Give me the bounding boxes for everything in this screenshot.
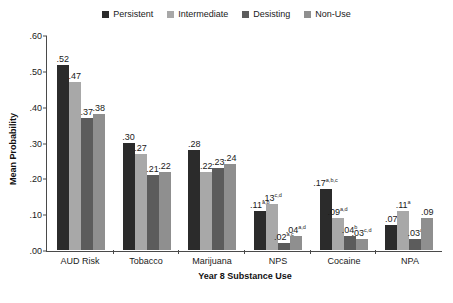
bar-value-text: .17 bbox=[313, 178, 326, 188]
bar[interactable] bbox=[188, 150, 200, 250]
legend-swatch-icon bbox=[304, 11, 311, 18]
legend-swatch-icon bbox=[102, 11, 109, 18]
bar[interactable] bbox=[159, 172, 171, 250]
bar[interactable] bbox=[212, 168, 224, 250]
bar-groups: .52.47.37.38.30.27.21.22.28.22.23.24.11a… bbox=[48, 36, 442, 250]
bar-value-text: .27 bbox=[134, 143, 147, 153]
bar-value-text: .11 bbox=[396, 200, 408, 210]
x-axis-tick-label: NPA bbox=[377, 256, 443, 266]
legend-entry: Desisting bbox=[242, 9, 290, 19]
bar-value-label: .09 bbox=[421, 208, 434, 217]
bar[interactable] bbox=[147, 175, 159, 250]
bar[interactable] bbox=[254, 211, 266, 250]
bar-value-label: .04a,d bbox=[286, 225, 306, 235]
bar-slot: .38 bbox=[93, 36, 105, 250]
bar-value-text: .37 bbox=[81, 107, 94, 117]
x-axis-tick-mark bbox=[310, 250, 311, 254]
bar-value-text: .04 bbox=[286, 225, 299, 235]
bar[interactable] bbox=[385, 225, 397, 250]
bar-value-label: .07 bbox=[385, 215, 398, 224]
bar-slot: .03a bbox=[409, 36, 421, 250]
bar[interactable] bbox=[356, 239, 368, 250]
bar[interactable] bbox=[290, 236, 302, 250]
bar[interactable] bbox=[93, 114, 105, 250]
bar-slot: .11a,b bbox=[254, 36, 266, 250]
bar-value-text: .52 bbox=[57, 54, 70, 64]
legend-entry: Non-Use bbox=[304, 9, 351, 19]
y-axis-tick-mark bbox=[43, 71, 47, 72]
bar-slot: .11a bbox=[397, 36, 409, 250]
x-axis-tick-label: Tobacco bbox=[113, 256, 179, 266]
y-axis-tick-mark bbox=[43, 215, 47, 216]
bar[interactable] bbox=[57, 65, 69, 250]
x-axis-title: Year 8 Substance Use bbox=[47, 271, 443, 281]
plot-area: .00.10.20.30.40.50.60 .52.47.37.38.30.27… bbox=[46, 36, 442, 252]
bar[interactable] bbox=[123, 143, 135, 250]
bar-slot: .17a,b,c bbox=[320, 36, 332, 250]
bar-value-label: .22 bbox=[158, 162, 171, 171]
bar[interactable] bbox=[224, 164, 236, 250]
bar[interactable] bbox=[200, 172, 212, 250]
bar-value-text: .47 bbox=[69, 71, 82, 81]
bar-value-label: .37 bbox=[81, 108, 94, 117]
bar-value-text: .22 bbox=[158, 161, 171, 171]
bar[interactable] bbox=[69, 82, 81, 250]
bar-slot: .02a,c bbox=[278, 36, 290, 250]
y-axis-tick-mark bbox=[43, 107, 47, 108]
bar-slot: .52 bbox=[57, 36, 69, 250]
bar-slot: .09a,d bbox=[332, 36, 344, 250]
bar-group: .17a,b,c.09a,d.04b.03c,d bbox=[311, 36, 377, 250]
x-axis-tick-label: AUD Risk bbox=[47, 256, 113, 266]
bar-slot: .22 bbox=[159, 36, 171, 250]
bar[interactable] bbox=[135, 154, 147, 250]
x-axis-tick-mark bbox=[113, 250, 114, 254]
bar-slot: .27 bbox=[135, 36, 147, 250]
bar-slot: .09 bbox=[421, 36, 433, 250]
legend-swatch-icon bbox=[242, 11, 249, 18]
legend-entry: Intermediate bbox=[167, 9, 228, 19]
bar[interactable] bbox=[320, 189, 332, 250]
bar-value-text: .13 bbox=[262, 193, 275, 203]
legend-label: Non-Use bbox=[315, 9, 351, 19]
x-axis-tick-mark bbox=[375, 250, 376, 254]
bar-value-text: .02 bbox=[274, 232, 287, 242]
x-axis-tick-label: Cocaine bbox=[311, 256, 377, 266]
y-axis-tick-mark bbox=[43, 251, 47, 252]
bar-slot: .03c,d bbox=[356, 36, 368, 250]
x-axis-tick-mark bbox=[244, 250, 245, 254]
bar-group: .11a,b.13c,d.02a,c.04a,d bbox=[245, 36, 311, 250]
bar-slot: .04b bbox=[344, 36, 356, 250]
bar[interactable] bbox=[266, 204, 278, 250]
bar-value-label: .28 bbox=[188, 140, 201, 149]
bar-value-label: .38 bbox=[93, 104, 106, 113]
bar-value-label: .21 bbox=[146, 165, 159, 174]
y-axis-tick-mark bbox=[43, 143, 47, 144]
bar-value-text: .03 bbox=[352, 228, 365, 238]
bar-slot: .22 bbox=[200, 36, 212, 250]
bar[interactable] bbox=[421, 218, 433, 250]
bar-slot: .37 bbox=[81, 36, 93, 250]
bar-chart-figure: PersistentIntermediateDesistingNon-Use .… bbox=[0, 0, 453, 303]
x-axis-tick-label: Marijuana bbox=[179, 256, 245, 266]
bar[interactable] bbox=[81, 118, 93, 250]
bar[interactable] bbox=[409, 239, 421, 250]
bar-slot: .21 bbox=[147, 36, 159, 250]
bar-value-text: .09 bbox=[327, 207, 340, 217]
bar-value-label: .30 bbox=[122, 133, 135, 142]
bar-value-text: .11 bbox=[250, 200, 262, 210]
bar-value-label: .47 bbox=[69, 72, 82, 81]
bar-value-text: .30 bbox=[122, 132, 135, 142]
x-axis-tick-mark bbox=[178, 250, 179, 254]
bar-slot: .23 bbox=[212, 36, 224, 250]
bar-value-label: .52 bbox=[57, 55, 70, 64]
bar-value-text: .28 bbox=[188, 139, 201, 149]
y-axis-tick-mark bbox=[43, 36, 47, 37]
bar-slot: .13c,d bbox=[266, 36, 278, 250]
bar-value-label: .22 bbox=[200, 162, 213, 171]
x-axis-tick-label: NPS bbox=[245, 256, 311, 266]
bar-slot: .28 bbox=[188, 36, 200, 250]
chart-legend: PersistentIntermediateDesistingNon-Use bbox=[0, 9, 453, 19]
bar[interactable] bbox=[278, 243, 290, 250]
legend-label: Desisting bbox=[253, 9, 290, 19]
bar-value-superscript: a,d bbox=[298, 224, 306, 230]
